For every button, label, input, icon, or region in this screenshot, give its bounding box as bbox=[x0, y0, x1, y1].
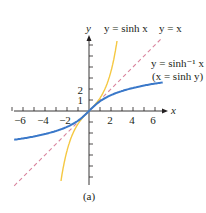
x-tick-label: −2 bbox=[59, 114, 71, 126]
x-tick-label: 4 bbox=[129, 114, 135, 126]
x-tick-label: 2 bbox=[107, 114, 113, 126]
x-axis-arrow-icon bbox=[162, 109, 168, 114]
x-tick-label: −6 bbox=[14, 114, 26, 126]
x-tick-label: 6 bbox=[150, 114, 156, 126]
asinh-label: y = sinh⁻¹ x bbox=[151, 57, 204, 69]
x-tick-label: −4 bbox=[37, 114, 49, 126]
asinh-alt-label: (x = sinh y) bbox=[152, 70, 203, 83]
figure-caption: (a) bbox=[83, 190, 96, 203]
y-tick-label: 2 bbox=[78, 84, 84, 96]
x-axis-label: x bbox=[170, 104, 176, 116]
identity-label: y = x bbox=[159, 22, 182, 34]
y-axis-arrow-icon bbox=[87, 35, 92, 41]
x-ticks bbox=[12, 107, 155, 111]
sinh-inverse-chart: −6 −4 −2 2 4 6 1 2 x y y = sinh x y = x … bbox=[0, 0, 206, 213]
y-axis-label: y bbox=[85, 22, 91, 34]
sinh-label: y = sinh x bbox=[104, 22, 148, 34]
